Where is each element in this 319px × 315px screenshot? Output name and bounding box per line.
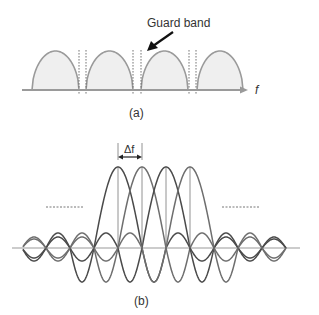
delta-f-label: Δf	[124, 143, 135, 155]
subcarrier-arch	[141, 51, 188, 90]
fdm-guard-band-diagram: f Guard band (a)	[22, 16, 260, 120]
subcarrier-arch	[32, 51, 79, 90]
subcarrier-arch	[86, 51, 133, 90]
caption-a: (a)	[129, 106, 144, 120]
peak-marker-lines	[118, 167, 190, 248]
ofdm-spectrum-figure: f Guard band (a) Δf (b)	[0, 0, 319, 315]
arrow-right-icon	[137, 155, 142, 160]
subcarrier-sinc-curve	[23, 167, 286, 282]
guard-band-annotation: Guard band	[147, 16, 210, 30]
subcarrier-arches	[32, 51, 243, 90]
sinc-subcarrier-curves	[23, 167, 286, 282]
subcarrier-sinc-curve	[23, 167, 286, 282]
subcarrier-sinc-curve	[23, 167, 286, 282]
caption-b: (b)	[134, 294, 149, 308]
subcarrier-sinc-curve	[23, 167, 286, 282]
axis-arrowhead-icon	[240, 87, 248, 94]
arrow-left-icon	[118, 155, 123, 160]
ofdm-sinc-diagram: Δf (b)	[12, 143, 300, 308]
guard-band-arrow	[153, 32, 173, 46]
frequency-axis-label: f	[255, 83, 260, 97]
subcarrier-arch	[197, 51, 243, 90]
